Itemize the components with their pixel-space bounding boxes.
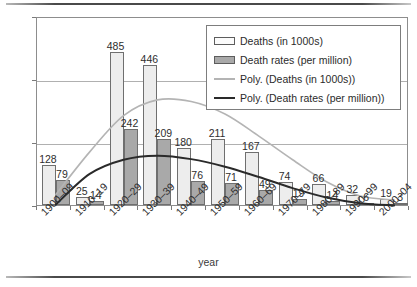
legend-item-label: Deaths (in 1000s) — [240, 35, 323, 47]
bar-value-label: 180 — [170, 137, 196, 148]
legend-item-label: Death rates (per million) — [240, 54, 352, 66]
legend-item: Poly. (Deaths (in 1000s)) — [214, 69, 400, 88]
bar-value-label: 76 — [184, 170, 210, 181]
legend-item: Death rates (per million) — [214, 50, 400, 69]
legend-swatch-icon — [214, 37, 235, 45]
x-axis-title: year — [0, 256, 417, 268]
bar-value-label: 211 — [204, 128, 230, 139]
bar-value-label: 71 — [218, 172, 244, 183]
chart-legend: Deaths (in 1000s)Death rates (per millio… — [206, 25, 401, 110]
bar-value-label: 167 — [238, 141, 264, 152]
legend-item: Deaths (in 1000s) — [214, 31, 400, 50]
top-divider-rule — [6, 3, 411, 5]
bar-value-label: 128 — [35, 154, 61, 165]
bar-value-label: 79 — [49, 169, 75, 180]
legend-swatch-icon — [214, 97, 235, 99]
bottom-divider-rule — [6, 276, 411, 278]
bar-value-label: 66 — [305, 173, 331, 184]
legend-item-label: Poly. (Deaths (in 1000s)) — [240, 73, 355, 85]
legend-swatch-icon — [214, 56, 235, 64]
bar-value-label: 446 — [136, 54, 162, 65]
chart-figure: 6004002000 12879251448524244620918076211… — [0, 0, 417, 287]
legend-item-label: Poly. (Death rates (per million)) — [240, 92, 385, 104]
bar-value-label: 74 — [272, 171, 298, 182]
bar-value-label: 485 — [103, 41, 129, 52]
legend-swatch-icon — [214, 78, 235, 80]
legend-item: Poly. (Death rates (per million)) — [214, 88, 400, 107]
bar-value-label: 242 — [117, 118, 143, 129]
